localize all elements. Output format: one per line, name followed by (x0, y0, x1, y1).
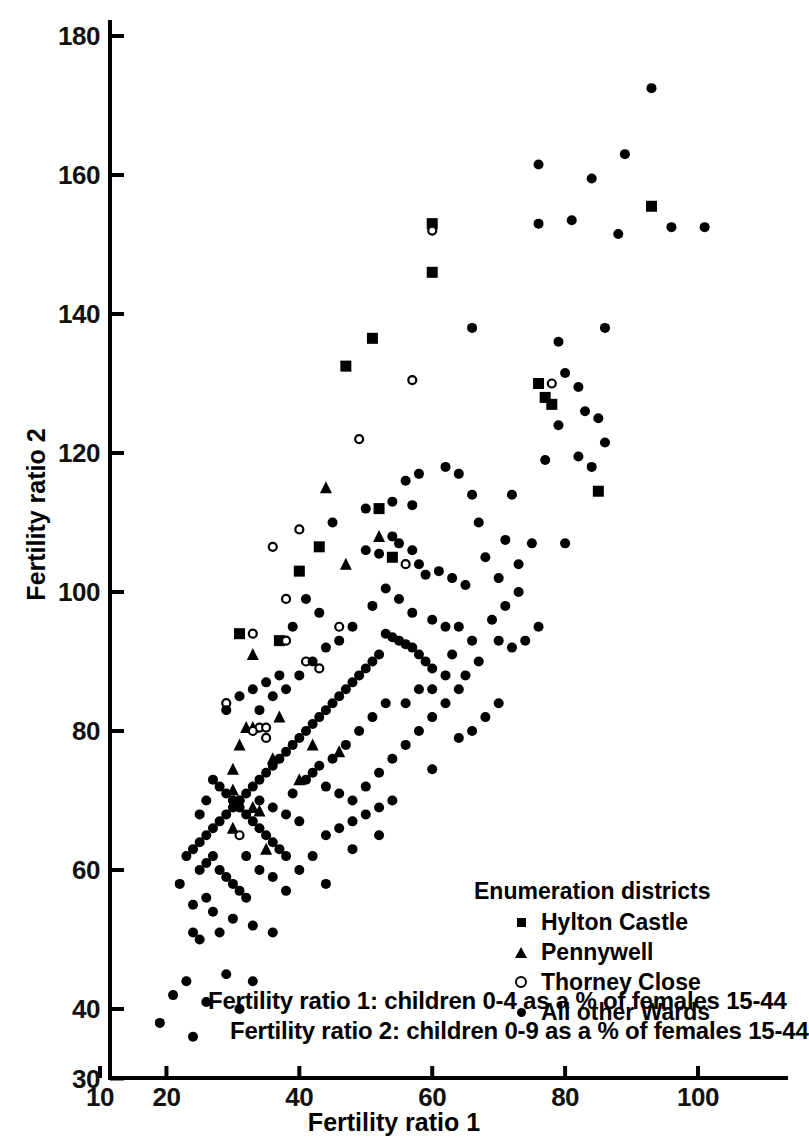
data-point (254, 865, 264, 875)
footnote-line-2: Fertility ratio 2: children 0-9 as a % o… (230, 1016, 809, 1046)
data-point (533, 378, 544, 389)
data-point (234, 628, 245, 639)
y-tick-label: 40 (18, 994, 100, 1025)
data-point (373, 530, 385, 542)
data-point (507, 490, 517, 500)
data-point (553, 337, 563, 347)
data-point (487, 615, 497, 625)
data-point (441, 622, 451, 632)
data-point (334, 789, 344, 799)
data-point (394, 538, 404, 548)
data-point (546, 399, 557, 410)
data-point (613, 229, 623, 239)
data-point (236, 831, 244, 839)
data-point (273, 711, 285, 723)
y-tick-label: 180 (18, 21, 100, 52)
data-point (534, 219, 544, 229)
data-point (221, 705, 231, 715)
data-point (534, 622, 544, 632)
data-point (387, 754, 397, 764)
data-point (175, 879, 185, 889)
data-point (221, 969, 231, 979)
data-point (414, 469, 424, 479)
data-point (620, 149, 630, 159)
data-point (188, 1032, 198, 1042)
data-point (261, 677, 271, 687)
data-point (321, 879, 331, 889)
data-point (427, 764, 437, 774)
data-point (427, 684, 437, 694)
data-point (361, 782, 371, 792)
data-point (587, 462, 597, 472)
data-point (235, 691, 245, 701)
data-point (282, 595, 290, 603)
data-point (347, 622, 357, 632)
data-point (666, 222, 676, 232)
legend-item-pennywell[interactable]: Pennywell (510, 937, 710, 967)
data-point (447, 573, 457, 583)
data-point (314, 541, 325, 552)
data-point (314, 608, 324, 618)
data-point (407, 500, 417, 510)
data-point (441, 670, 451, 680)
data-point (414, 559, 424, 569)
legend-item-hylton-castle[interactable]: Hylton Castle (510, 907, 710, 937)
data-point (374, 503, 385, 514)
data-point (168, 990, 178, 1000)
data-point (548, 380, 556, 388)
data-point (247, 648, 259, 660)
data-point (328, 518, 338, 528)
data-point (401, 698, 411, 708)
data-point (460, 670, 470, 680)
data-point (195, 935, 205, 945)
data-point (288, 622, 298, 632)
data-point (467, 726, 477, 736)
y-axis-label: Fertility ratio 2 (22, 395, 51, 635)
filled-square-icon (510, 918, 532, 927)
data-point (408, 376, 416, 384)
filled-triangle-icon (510, 947, 532, 958)
footnotes: Fertility ratio 1: children 0-4 as a % o… (208, 986, 809, 1046)
data-point (281, 809, 291, 819)
data-point (600, 438, 610, 448)
data-point (500, 535, 510, 545)
data-point (520, 636, 530, 646)
data-point (268, 691, 278, 701)
data-point (367, 712, 377, 722)
footnote-line-1: Fertility ratio 1: children 0-4 as a % o… (208, 986, 809, 1016)
data-point (381, 698, 391, 708)
data-point (314, 761, 324, 771)
data-point (567, 215, 577, 225)
data-point (467, 490, 477, 500)
data-point (294, 670, 304, 680)
data-point (282, 637, 290, 645)
y-tick-label: 140 (18, 299, 100, 330)
data-point (268, 928, 278, 938)
data-point (447, 650, 457, 660)
data-point (494, 636, 504, 646)
data-point (467, 323, 477, 333)
data-point (646, 83, 656, 93)
data-point (281, 684, 291, 694)
data-point (262, 734, 270, 742)
data-point (308, 657, 318, 667)
data-point (361, 809, 371, 819)
data-point (540, 455, 550, 465)
data-point (441, 462, 451, 472)
y-tick-label: 80 (18, 716, 100, 747)
data-point (427, 663, 437, 673)
data-point (227, 763, 239, 775)
data-point (254, 796, 264, 806)
data-point (347, 844, 357, 854)
legend-item-label: Hylton Castle (541, 907, 688, 937)
data-point (402, 560, 410, 568)
data-point (340, 361, 351, 372)
data-point (407, 545, 417, 555)
data-point (553, 420, 563, 430)
data-point (580, 406, 590, 416)
data-point (414, 726, 424, 736)
data-point (394, 594, 404, 604)
data-point (527, 538, 537, 548)
data-point (374, 768, 384, 778)
data-point (201, 796, 211, 806)
